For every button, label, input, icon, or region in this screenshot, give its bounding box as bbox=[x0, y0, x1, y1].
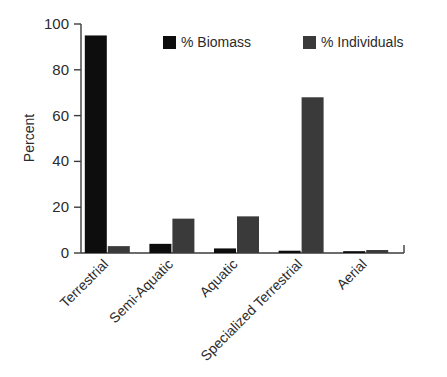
y-axis-tick-label: 80 bbox=[52, 61, 69, 78]
bar bbox=[343, 251, 365, 253]
x-axis-category-label: Aquatic bbox=[196, 256, 240, 300]
bar bbox=[149, 244, 171, 253]
x-axis-category-label: Aerial bbox=[333, 256, 370, 293]
bar bbox=[108, 246, 130, 253]
legend-swatch bbox=[303, 36, 316, 49]
y-axis-tick-label: 20 bbox=[52, 198, 69, 215]
legend-label: % Individuals bbox=[321, 34, 404, 50]
y-axis-tick-group: 020406080100 bbox=[44, 15, 81, 261]
bar bbox=[237, 216, 259, 253]
chart-canvas: 020406080100 Percent TerrestrialSemi-Aqu… bbox=[0, 0, 447, 377]
x-axis-category-label: Semi-Aquatic bbox=[106, 256, 176, 326]
y-axis-tick-label: 60 bbox=[52, 107, 69, 124]
bar bbox=[279, 251, 301, 253]
legend-label: % Biomass bbox=[181, 34, 251, 50]
y-axis-tick-label: 0 bbox=[61, 244, 69, 261]
bar bbox=[85, 35, 107, 253]
bars-group bbox=[85, 35, 388, 253]
y-axis-tick-label: 40 bbox=[52, 152, 69, 169]
bar bbox=[302, 97, 324, 253]
bar-chart: 020406080100 Percent TerrestrialSemi-Aqu… bbox=[0, 0, 447, 377]
y-axis-tick-label: 100 bbox=[44, 15, 69, 32]
y-axis-title: Percent bbox=[21, 114, 37, 162]
bar bbox=[172, 219, 194, 253]
legend-swatch bbox=[163, 36, 176, 49]
legend: % Biomass% Individuals bbox=[163, 34, 404, 50]
x-axis-category-label: Terrestrial bbox=[57, 256, 112, 311]
bar bbox=[214, 248, 236, 253]
bar bbox=[366, 250, 388, 253]
category-labels-group: TerrestrialSemi-AquaticAquaticSpecialize… bbox=[57, 256, 370, 364]
